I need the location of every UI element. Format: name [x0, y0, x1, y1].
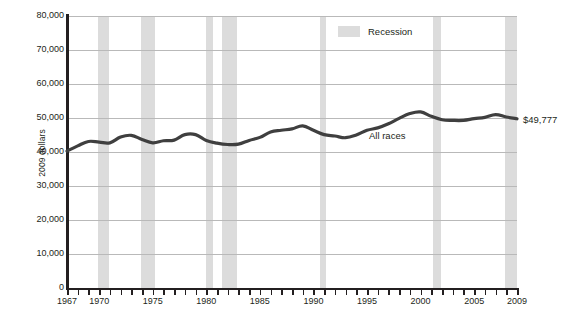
x-tick	[324, 288, 326, 295]
x-tick	[421, 288, 423, 295]
y-tick-label: 0	[18, 282, 64, 292]
x-tick	[249, 288, 251, 295]
x-tick	[142, 288, 144, 295]
legend-swatch-recession	[338, 26, 360, 37]
y-tick-label: 70,000	[18, 44, 64, 54]
x-tick	[110, 288, 112, 295]
x-tick	[88, 288, 90, 295]
x-tick	[196, 288, 198, 295]
x-tick-label: 1995	[347, 296, 387, 306]
series-inline-label-all-races: All races	[369, 130, 405, 141]
x-tick	[153, 288, 155, 295]
y-tick-label: 10,000	[18, 248, 64, 258]
x-tick	[346, 288, 348, 295]
x-tick	[281, 288, 283, 295]
x-tick	[174, 288, 176, 295]
x-tick	[228, 288, 230, 295]
x-tick	[506, 288, 508, 295]
x-tick	[367, 288, 369, 295]
x-tick	[474, 288, 476, 295]
x-tick	[78, 288, 80, 295]
y-tick-label: 30,000	[18, 180, 64, 190]
x-tick	[292, 288, 294, 295]
y-tick-label: 50,000	[18, 112, 64, 122]
y-tick-label: 20,000	[18, 214, 64, 224]
x-tick	[260, 288, 262, 295]
x-tick-label: 1975	[133, 296, 173, 306]
x-tick	[356, 288, 358, 295]
legend-label-recession: Recession	[368, 26, 412, 37]
x-tick-label: 2009	[497, 296, 537, 306]
x-tick	[206, 288, 208, 295]
x-tick	[378, 288, 380, 295]
end-value-label: $49,777	[523, 114, 557, 125]
x-tick-label: 1990	[293, 296, 333, 306]
x-tick-label: 1985	[240, 296, 280, 306]
x-tick	[67, 288, 69, 295]
x-tick	[163, 288, 165, 295]
x-tick	[517, 288, 519, 295]
x-tick	[399, 288, 401, 295]
chart-root: 2009 dollars 80,00070,00060,00050,00040,…	[0, 0, 570, 322]
x-tick	[131, 288, 133, 295]
x-tick-label: 1980	[186, 296, 226, 306]
x-tick	[217, 288, 219, 295]
x-tick	[431, 288, 433, 295]
x-tick	[271, 288, 273, 295]
legend: Recession	[338, 26, 412, 37]
x-tick	[99, 288, 101, 295]
y-tick-label: 80,000	[18, 10, 64, 20]
x-tick	[496, 288, 498, 295]
x-tick	[238, 288, 240, 295]
x-tick	[313, 288, 315, 295]
x-tick-label: 2005	[454, 296, 494, 306]
x-tick	[185, 288, 187, 295]
plot-area	[67, 16, 517, 288]
series-path	[67, 112, 517, 151]
x-tick	[303, 288, 305, 295]
x-tick	[410, 288, 412, 295]
y-axis-tick-labels: 80,00070,00060,00050,00040,00030,00020,0…	[12, 0, 64, 322]
x-tick-label: 2000	[401, 296, 441, 306]
x-tick-label: 1970	[79, 296, 119, 306]
y-tick-label: 60,000	[18, 78, 64, 88]
x-tick	[485, 288, 487, 295]
series-line-all-races	[67, 16, 517, 288]
x-tick	[121, 288, 123, 295]
x-tick	[388, 288, 390, 295]
x-tick	[463, 288, 465, 295]
x-tick	[453, 288, 455, 295]
y-tick-label: 40,000	[18, 146, 64, 156]
x-tick	[442, 288, 444, 295]
x-tick	[335, 288, 337, 295]
